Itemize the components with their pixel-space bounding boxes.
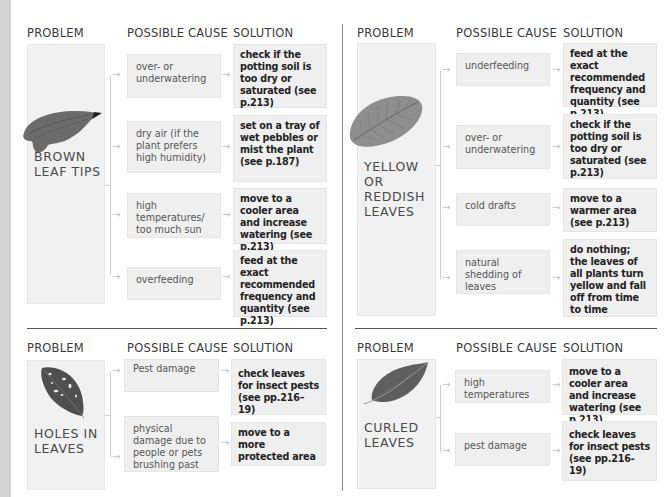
cause-box: high temperatures/ too much sun (127, 193, 221, 238)
arrow-icon: → (552, 273, 560, 283)
column-divider (342, 24, 343, 491)
problem-box: BROWN LEAF TIPS (27, 44, 105, 304)
arrow-icon: → (442, 273, 450, 283)
solution-box: check if the potting soil is too dry or … (233, 44, 327, 108)
header-possible-cause: POSSIBLE CAUSE (456, 26, 557, 40)
header-problem: PROBLEM (27, 26, 84, 40)
arrow-icon: → (112, 210, 120, 220)
cause-box: over- or underwatering (127, 54, 221, 98)
arrow-icon: → (552, 142, 560, 152)
connector-trunk (110, 371, 111, 457)
solution-box: check if the potting soil is too dry or … (563, 114, 657, 179)
solution-box: check leaves for insect pests (see pp.21… (562, 421, 657, 481)
header-problem: PROBLEM (357, 26, 414, 40)
arrow-icon: → (221, 366, 229, 376)
cause-box: overfeeding (127, 267, 221, 300)
problem-title: YELLOW OR REDDISH LEAVES (364, 159, 425, 219)
arrow-icon: → (222, 70, 230, 80)
arrow-icon: → (112, 70, 120, 80)
arrow-icon: → (442, 65, 450, 75)
cause-box: physical damage due to people or pets br… (124, 416, 219, 472)
problem-box: YELLOW OR REDDISH LEAVES (357, 43, 436, 316)
arrow-icon: → (222, 210, 230, 220)
problem-title: BROWN LEAF TIPS (34, 149, 101, 179)
solution-box: move to a cooler area and increase water… (562, 359, 657, 415)
arrow-icon: → (442, 446, 450, 456)
header-possible-cause: POSSIBLE CAUSE (127, 341, 228, 355)
header-possible-cause: POSSIBLE CAUSE (456, 341, 557, 355)
arrow-icon: → (112, 366, 120, 376)
solution-box: feed at the exact recommended frequency … (233, 250, 327, 317)
section-rule-left (27, 328, 327, 329)
header-problem: PROBLEM (27, 341, 84, 355)
connector-trunk (440, 70, 441, 279)
connector-trunk (440, 385, 441, 452)
solution-box: do nothing; the leaves of all plants tur… (563, 239, 657, 317)
arrow-icon: → (552, 65, 560, 75)
problem-box: HOLES IN LEAVES (27, 360, 105, 490)
arrow-icon: → (552, 203, 560, 213)
arrow-icon: → (552, 446, 560, 456)
arrow-icon: → (221, 438, 229, 448)
problem-box: CURLED LEAVES (357, 359, 436, 489)
textured-yellow-leaf-icon (346, 88, 426, 150)
problem-title: CURLED LEAVES (364, 420, 419, 450)
arrow-icon: → (112, 272, 120, 282)
holed-leaf-icon (38, 364, 88, 420)
connector-trunk (110, 75, 111, 275)
solution-box: set on a tray of wet pebbles or mist the… (233, 115, 327, 182)
arrow-icon: → (442, 203, 450, 213)
solution-box: check leaves for insect pests (see pp.21… (231, 359, 326, 415)
solution-box: move to a more protected area (231, 422, 326, 466)
solution-box: move to a cooler area and increase water… (233, 188, 327, 244)
solution-box: feed at the exact recommended frequency … (563, 43, 657, 107)
header-possible-cause: POSSIBLE CAUSE (127, 26, 228, 40)
cause-box: dry air (if the plant prefers high humid… (127, 121, 221, 173)
arrow-icon: → (222, 272, 230, 282)
cause-box: Pest damage (124, 359, 219, 392)
page-edge-strip (0, 0, 11, 497)
cause-box: over- or underwatering (456, 125, 550, 169)
header-solution: SOLUTION (563, 341, 623, 355)
arrow-icon: → (442, 380, 450, 390)
cause-box: cold drafts (456, 193, 550, 226)
problem-title: HOLES IN LEAVES (34, 426, 98, 456)
curled-leaf-icon (362, 360, 432, 408)
cause-box: natural shedding of leaves (456, 250, 550, 294)
cause-box: underfeeding (456, 53, 550, 86)
header-solution: SOLUTION (233, 26, 293, 40)
arrow-icon: → (222, 142, 230, 152)
cause-box: high temperatures (455, 370, 550, 403)
curled-brown-leaf-icon (20, 103, 102, 155)
header-problem: PROBLEM (357, 341, 414, 355)
arrow-icon: → (442, 142, 450, 152)
section-rule-right (355, 328, 657, 329)
cause-box: pest damage (455, 433, 550, 466)
header-solution: SOLUTION (563, 26, 623, 40)
arrow-icon: → (112, 142, 120, 152)
arrow-icon: → (112, 452, 120, 462)
header-solution: SOLUTION (233, 341, 293, 355)
solution-box: move to a warmer area (see p.213) (563, 188, 657, 232)
arrow-icon: → (552, 380, 560, 390)
